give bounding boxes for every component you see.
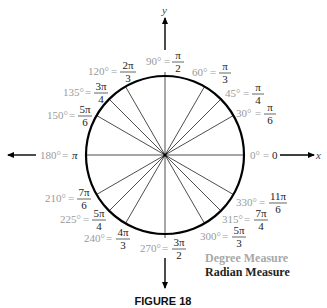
svg-text:=: =: [222, 230, 228, 242]
svg-text:5π: 5π: [93, 207, 105, 219]
svg-text:3: 3: [222, 73, 228, 85]
label-315deg: 315° = 7π 4: [222, 207, 268, 232]
x-axis-label: x: [315, 149, 321, 161]
svg-text:4: 4: [98, 93, 104, 105]
unit-circle-diagram: y x 0° = 0 180° = π 30° = π 6 45° = π 4 …: [0, 0, 327, 308]
label-270deg: 270° = 3π 2: [140, 236, 186, 261]
svg-text:4: 4: [96, 220, 102, 232]
svg-text:330°: 330°: [236, 196, 257, 208]
svg-text:0°: 0°: [250, 149, 260, 161]
svg-text:=: =: [106, 232, 112, 244]
svg-text:3: 3: [120, 239, 126, 251]
label-300deg: 300° = 5π 3: [200, 224, 246, 249]
svg-text:=: =: [263, 149, 269, 161]
svg-text:45°: 45°: [225, 87, 240, 99]
svg-text:3π: 3π: [95, 80, 107, 92]
svg-text:180°: 180°: [40, 149, 61, 161]
svg-text:=: =: [83, 213, 89, 225]
label-90deg: 90° = π 2: [146, 49, 184, 74]
svg-text:=: =: [244, 213, 250, 225]
legend-radian-measure: Radian Measure: [205, 265, 290, 279]
svg-text:270°: 270°: [140, 242, 161, 254]
svg-text:150°: 150°: [47, 109, 68, 121]
label-150deg: 150° = 5π 6: [47, 103, 92, 128]
svg-text:π: π: [72, 149, 78, 161]
svg-text:=: =: [162, 242, 168, 254]
label-240deg: 240° = 4π 3: [84, 226, 130, 251]
svg-text:240°: 240°: [84, 232, 105, 244]
svg-text:4: 4: [258, 220, 264, 232]
svg-text:6: 6: [81, 199, 87, 211]
svg-text:=: =: [69, 109, 75, 121]
svg-text:π: π: [255, 81, 261, 93]
label-60deg: 60° = π 3: [192, 60, 231, 85]
svg-text:90°: 90°: [146, 55, 161, 67]
svg-text:11π: 11π: [270, 190, 287, 202]
svg-text:π: π: [175, 49, 181, 61]
label-135deg: 135° = 3π 4: [63, 80, 108, 105]
svg-text:=: =: [164, 55, 170, 67]
svg-text:4: 4: [255, 94, 261, 106]
svg-text:6: 6: [275, 203, 281, 215]
label-210deg: 210° = 7π 6: [45, 186, 91, 211]
y-axis-label: y: [161, 4, 167, 16]
svg-text:7π: 7π: [78, 186, 90, 198]
svg-text:=: =: [62, 149, 68, 161]
figure-caption: FIGURE 18: [135, 295, 192, 307]
svg-text:π: π: [222, 60, 228, 72]
svg-text:3π: 3π: [173, 236, 185, 248]
svg-text:=: =: [259, 196, 265, 208]
svg-text:5π: 5π: [79, 103, 91, 115]
svg-text:π: π: [267, 101, 273, 113]
svg-text:=: =: [68, 192, 74, 204]
svg-text:2: 2: [176, 249, 182, 261]
svg-text:225°: 225°: [60, 213, 81, 225]
svg-text:2π: 2π: [122, 59, 134, 71]
label-180deg: 180° = π: [40, 149, 78, 161]
svg-text:300°: 300°: [200, 230, 221, 242]
legend-degree-measure: Degree Measure: [205, 251, 289, 265]
svg-text:7π: 7π: [255, 207, 267, 219]
origin-dot: [163, 153, 166, 156]
svg-text:=: =: [210, 66, 216, 78]
svg-text:2: 2: [175, 62, 181, 74]
svg-text:60°: 60°: [192, 66, 207, 78]
svg-text:=: =: [243, 87, 249, 99]
svg-text:=: =: [255, 107, 261, 119]
svg-text:210°: 210°: [45, 192, 66, 204]
label-45deg: 45° = π 4: [225, 81, 264, 106]
svg-text:0: 0: [272, 149, 278, 161]
svg-text:4π: 4π: [117, 226, 129, 238]
svg-text:5π: 5π: [233, 224, 245, 236]
svg-text:6: 6: [267, 114, 273, 126]
svg-text:3: 3: [236, 237, 242, 249]
svg-text:120°: 120°: [88, 65, 109, 77]
svg-text:6: 6: [82, 116, 88, 128]
svg-text:315°: 315°: [222, 213, 243, 225]
label-0deg: 0° = 0: [250, 149, 278, 161]
svg-text:3: 3: [125, 72, 131, 84]
svg-text:=: =: [85, 86, 91, 98]
svg-text:135°: 135°: [63, 86, 84, 98]
svg-text:=: =: [111, 65, 117, 77]
svg-text:30°: 30°: [236, 107, 251, 119]
